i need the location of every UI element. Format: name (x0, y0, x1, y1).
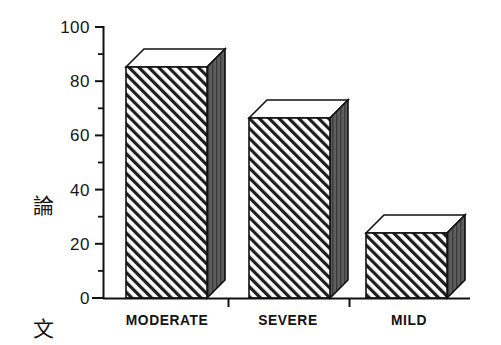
bar-mild (366, 215, 465, 298)
bar-moderate (126, 49, 225, 298)
x-axis (103, 299, 470, 308)
bar-chart: 論 文 数 100 80 60 40 20 0 MODERATE SEVERE … (0, 0, 501, 345)
bar-mild-front-face (366, 233, 447, 298)
bar-severe-front-face (249, 118, 330, 298)
y-axis (92, 26, 104, 299)
plot-area (0, 0, 501, 345)
bar-severe (249, 100, 348, 298)
bar-moderate-front-face (126, 67, 207, 298)
bar-moderate-side-face (207, 49, 225, 298)
bar-severe-side-face (330, 100, 348, 298)
